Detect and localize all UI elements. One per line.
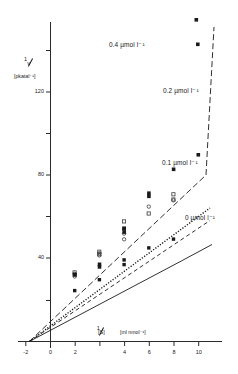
x-tick-label-neg2: -2 [23,350,28,356]
x-axis-ticks [26,342,199,347]
x-axis-fraction: 1 [S] [96,325,103,336]
y-tick-label-120: 120 [18,89,44,95]
y-axis-fraction: 1 v [25,56,28,67]
y-tick-label-80: 80 [18,172,44,178]
y-axis-title: 1 v [25,56,28,67]
trendline-0-umol-ext [181,245,212,262]
x-tick-label-8: 8 [172,350,175,356]
y-axis-denominator: v [27,61,30,67]
axes [18,22,222,348]
series-annotation-02-umol: 0.2 µmol l⁻¹ [163,88,199,95]
x-axis-units: [ml nmol⁻¹] [120,330,146,335]
series-annotation-04-umol: 0.4 µmol l⁻¹ [109,42,145,49]
x-tick-label-6: 6 [148,350,151,356]
plot-canvas [0,0,238,374]
y-axis-units: [pkatal⁻¹] [14,74,35,79]
datapoints-0-umol [73,237,175,292]
lineweaver-burk-chart: 1 v [pkatal⁻¹] 120 80 40 -2 0 2 4 6 8 10… [0,0,238,374]
series-trendlines [29,27,214,342]
trendline-04-umol [29,175,206,342]
y-axis-ticks [46,51,51,301]
y-tick-label-40: 40 [18,255,44,261]
trendline-04-umol-ext [206,27,214,175]
x-axis-denominator: [S] [98,330,105,336]
series-annotation-0-umol: 0 µmol l⁻¹ [185,215,215,222]
series-annotation-01-umol: 0.1 µmol l⁻¹ [162,160,198,167]
x-tick-label-4: 4 [123,350,126,356]
trendline-0-umol [29,261,181,342]
x-axis-title: 1 [S] [96,325,103,336]
x-tick-label-0: 0 [49,350,52,356]
datapoints-04-umol [73,18,200,277]
trendline-02-umol [29,208,210,342]
x-tick-label-2: 2 [74,350,77,356]
trendline-01-umol [29,221,210,342]
x-tick-label-10: 10 [196,350,202,356]
